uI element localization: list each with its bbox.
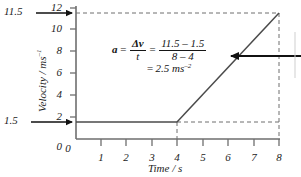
equation-result-value: 2.5 ms — [156, 63, 185, 75]
x-tick-label-5: 5 — [196, 152, 210, 163]
y-axis-title-text: Velocity / ms — [36, 56, 48, 112]
y-axis-title: Velocity / ms–1 — [36, 49, 48, 112]
velocity-time-figure: 12 10 8 6 4 2 0 0 1 2 3 4 5 6 7 8 Veloci… — [0, 0, 301, 177]
equation-equals-2: = — [147, 44, 158, 56]
equation-fraction-delta-v-over-t: Δv t — [130, 38, 146, 62]
equation-line-1: a = Δv t = 11.5 – 1.5 8 – 4 — [112, 38, 207, 62]
equation-denominator-values: 8 – 4 — [170, 51, 196, 63]
y-tick-label-0: 0 — [44, 141, 62, 152]
x-tick-label-1: 1 — [94, 152, 108, 163]
x-axis-ticks — [101, 139, 279, 146]
y-axis-ticks — [70, 8, 76, 117]
equation-equals-3: = — [144, 63, 155, 75]
x-tick-label-7: 7 — [247, 152, 261, 163]
equation-fraction-values: 11.5 – 1.5 8 – 4 — [159, 38, 206, 62]
y-tick-label-2: 2 — [44, 111, 62, 122]
x-tick-label-0: 0 — [61, 143, 75, 154]
equation-numerator-values: 11.5 – 1.5 — [159, 38, 206, 51]
y-tick-label-12: 12 — [44, 2, 62, 13]
x-axis-title: Time / s — [148, 163, 182, 174]
equation-line-2: = 2.5 ms–2 — [112, 63, 207, 75]
equation-result-exponent: –2 — [184, 63, 191, 75]
acceleration-equation: a = Δv t = 11.5 – 1.5 8 – 4 = 2.5 ms–2 — [112, 38, 207, 75]
equation-numerator-delta-v: Δv — [130, 38, 146, 51]
y-tick-label-10: 10 — [44, 23, 62, 34]
callout-label-lower-value: 1.5 — [4, 115, 18, 126]
equation-equals-1: = — [118, 44, 129, 56]
x-tick-label-6: 6 — [221, 152, 235, 163]
callout-label-upper-value: 11.5 — [4, 6, 22, 17]
x-tick-label-2: 2 — [119, 152, 133, 163]
y-axis-title-exponent: –1 — [35, 49, 43, 56]
x-tick-label-8: 8 — [272, 152, 286, 163]
equation-denominator-t: t — [134, 51, 141, 63]
